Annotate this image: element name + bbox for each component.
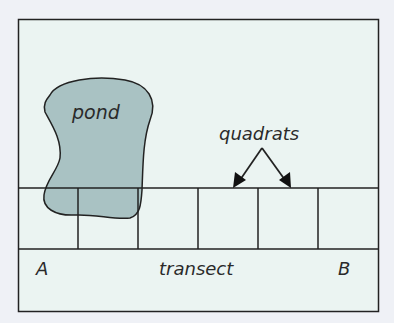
transect-diagram: pond quadrats A transect B: [0, 0, 394, 323]
pond-label: pond: [71, 101, 121, 123]
transect-label: transect: [159, 258, 234, 279]
end-a-label: A: [35, 258, 48, 279]
quadrats-label: quadrats: [219, 123, 299, 144]
pond-shape: [44, 78, 153, 218]
end-b-label: B: [338, 258, 350, 279]
